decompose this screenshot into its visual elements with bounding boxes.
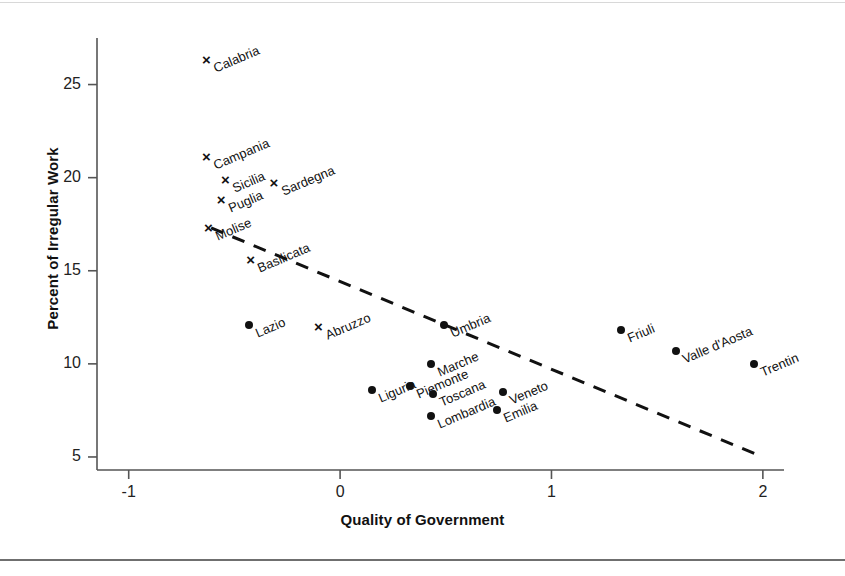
trend-line — [211, 228, 763, 457]
data-point-marker: × — [270, 179, 279, 187]
data-point-marker: × — [314, 323, 323, 331]
data-point-marker — [427, 412, 435, 420]
data-point-marker: × — [246, 256, 255, 264]
x-tick-label: -1 — [109, 483, 149, 501]
x-axis-title: Quality of Government — [0, 511, 845, 528]
data-point-marker — [245, 321, 253, 329]
figure-scatter-plot: 510152025 -1012 ×××××××× CalabriaCampani… — [0, 0, 845, 576]
data-point-marker — [672, 347, 680, 355]
x-tick-label: 2 — [743, 483, 783, 501]
x-tick-label: 1 — [531, 483, 571, 501]
data-point-marker — [368, 386, 376, 394]
y-axis-ticks — [88, 85, 97, 457]
data-point-marker — [440, 321, 448, 329]
data-point-marker: × — [217, 196, 226, 204]
data-point-marker: × — [202, 153, 211, 161]
y-axis-title: Percent of Irregular Work — [44, 89, 61, 389]
data-point-marker: × — [202, 56, 211, 64]
x-tick-label: 0 — [320, 483, 360, 501]
data-point-marker — [427, 360, 435, 368]
data-point-marker — [499, 388, 507, 396]
data-point-marker: × — [221, 176, 230, 184]
y-tick-label: 5 — [41, 447, 81, 465]
x-axis-ticks — [129, 470, 763, 479]
data-point-marker: × — [204, 224, 213, 232]
